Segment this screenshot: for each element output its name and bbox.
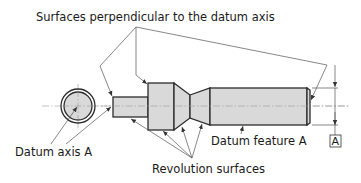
label-datum-axis: Datum axis A — [15, 145, 92, 159]
label-perpendicular-surfaces: Surfaces perpendicular to the datum axis — [36, 10, 275, 24]
label-datum-feature: Datum feature A — [211, 134, 307, 148]
chamfer-end — [307, 88, 310, 125]
datum-box-letter: A — [332, 135, 340, 148]
label-revolution-surfaces: Revolution surfaces — [152, 162, 265, 176]
long-shaft — [210, 88, 307, 125]
large-cylinder — [148, 83, 174, 130]
datum-dimension: A — [312, 65, 341, 148]
second-cone — [190, 88, 210, 125]
small-cylinder — [113, 97, 148, 117]
datum-feature-leader — [241, 126, 243, 134]
diagram-canvas: Surfaces perpendicular to the datum axis… — [0, 0, 361, 183]
first-cone — [174, 83, 190, 130]
